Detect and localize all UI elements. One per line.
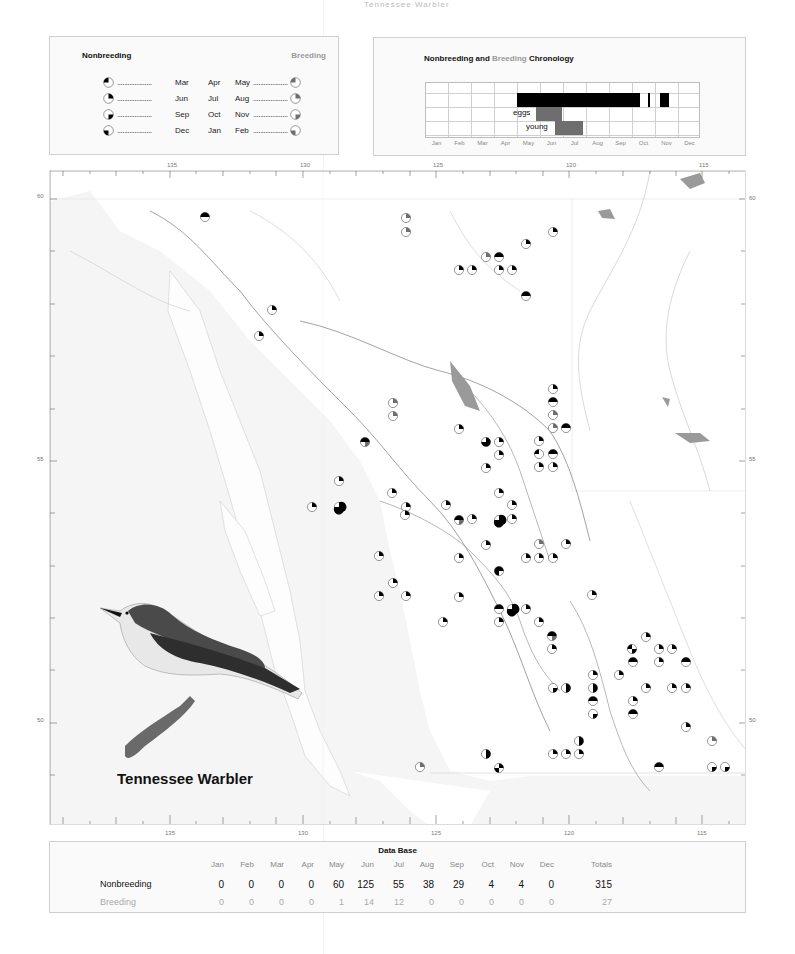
pie-quarter-bottom-left-icon (103, 125, 114, 136)
longitude-label: 120 (564, 830, 574, 836)
legend-breeding-heading: Breeding (291, 51, 326, 60)
pie-quarter-top-right-icon (103, 93, 114, 104)
longitude-label: 125 (433, 162, 443, 168)
page-header: Tennessee Warbler (364, 0, 450, 9)
chronology-panel: Nonbreeding and Breeding Chronology eggs… (373, 37, 746, 156)
legend-month: Sep (175, 108, 189, 121)
month-tick: Apr (494, 140, 517, 146)
cell: 14 (348, 897, 374, 907)
longitude-label: 115 (697, 830, 707, 836)
latitude-label: 55 (37, 456, 44, 462)
pie-quarter-bottom-left-breeding-icon (290, 125, 301, 136)
species-name: Tennessee Warbler (117, 770, 253, 787)
cell: 0 (258, 879, 284, 890)
legend-nonbreeding-heading: Nonbreeding (82, 51, 131, 60)
cell: 12 (378, 897, 404, 907)
latitude-label: 55 (749, 456, 756, 462)
cell: 38 (408, 879, 434, 890)
legend-month: Jan (208, 124, 221, 137)
leader-dots: .................... (117, 108, 175, 121)
pie-quarter-top-left-icon (103, 77, 114, 88)
longitude-label: 115 (699, 162, 709, 168)
column-header: Feb (228, 860, 254, 869)
month-tick: Mar (471, 140, 494, 146)
cell: 125 (348, 879, 374, 890)
month-tick: May (517, 140, 540, 146)
cell: 0 (228, 897, 254, 907)
cell: 29 (438, 879, 464, 890)
leader-dots: .................... (253, 92, 293, 105)
latitude-label: 50 (749, 717, 756, 723)
cell: 0 (408, 897, 434, 907)
legend-row: .................... Jun Jul Aug .......… (103, 92, 303, 105)
cell: 0 (228, 879, 254, 890)
leader-dots: .................... (117, 76, 175, 89)
longitude-label: 125 (431, 830, 441, 836)
legend-month: May (235, 76, 250, 89)
legend-month: Apr (208, 76, 220, 89)
column-header: Mar (258, 860, 284, 869)
cell: 0 (288, 879, 314, 890)
pie-quarter-bottom-right-icon (103, 109, 114, 120)
legend-month: Feb (235, 124, 249, 137)
column-header: Jun (348, 860, 374, 869)
young-label: young (526, 122, 548, 131)
chronology-title: Nonbreeding and Breeding Chronology (424, 54, 574, 63)
column-header: Oct (468, 860, 494, 869)
row-label-breeding: Breeding (100, 897, 136, 907)
database-title: Data Base (50, 846, 745, 855)
legend-month: Mar (175, 76, 189, 89)
column-header: May (318, 860, 344, 869)
month-tick: Dec (678, 140, 701, 146)
legend-month: Jul (208, 92, 218, 105)
pie-quarter-top-left-breeding-icon (290, 77, 301, 88)
nonbreeding-bar (648, 93, 650, 107)
month-tick: Oct (632, 140, 655, 146)
column-header: Nov (498, 860, 524, 869)
longitude-label: 130 (300, 162, 310, 168)
column-header: Sep (438, 860, 464, 869)
eggs-bar (536, 107, 562, 121)
leader-dots: .................... (253, 124, 293, 137)
cell: 4 (468, 879, 494, 890)
month-tick: Sep (609, 140, 632, 146)
legend-month: Dec (175, 124, 189, 137)
leader-dots: .................... (117, 92, 175, 105)
month-tick: Feb (448, 140, 471, 146)
pie-quarter-bottom-right-breeding-icon (290, 109, 301, 120)
row-label-nonbreeding: Nonbreeding (100, 879, 152, 889)
month-tick: Jan (425, 140, 448, 146)
cell: 0 (288, 897, 314, 907)
cell: 0 (468, 897, 494, 907)
cell: 60 (318, 879, 344, 890)
cell: 55 (378, 879, 404, 890)
legend-month: Jun (175, 92, 188, 105)
database-table: Data Base Jan Feb Mar Apr May Jun Jul Au… (49, 841, 746, 913)
cell: 0 (438, 897, 464, 907)
column-header: Aug (408, 860, 434, 869)
month-tick: Nov (655, 140, 678, 146)
month-tick: Aug (586, 140, 609, 146)
longitude-label: 120 (566, 162, 576, 168)
chronology-grid: eggs young (425, 82, 700, 138)
legend-panel: Nonbreeding Breeding ...................… (49, 36, 339, 155)
longitude-label: 135 (167, 162, 177, 168)
cell: 0 (258, 897, 284, 907)
pie-quarter-top-right-breeding-icon (290, 93, 301, 104)
distribution-map (49, 170, 746, 825)
column-header: Dec (528, 860, 554, 869)
young-bar (555, 121, 583, 135)
leader-dots: .................... (117, 124, 175, 137)
cell: 1 (318, 897, 344, 907)
legend-month: Nov (235, 108, 249, 121)
cell-total: 315 (572, 879, 612, 890)
legend-row: .................... Sep Oct Nov .......… (103, 108, 303, 121)
column-header: Apr (288, 860, 314, 869)
column-header-totals: Totals (572, 860, 612, 869)
cell: 4 (498, 879, 524, 890)
column-header: Jan (198, 860, 224, 869)
month-tick: Jun (540, 140, 563, 146)
column-header: Jul (378, 860, 404, 869)
cell: 0 (198, 879, 224, 890)
cell: 0 (528, 897, 554, 907)
